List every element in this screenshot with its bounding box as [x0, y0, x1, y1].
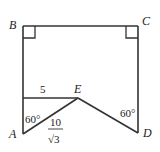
label-e: E: [73, 82, 82, 96]
label-c: C: [142, 14, 151, 28]
geometry-diagram: B C A E D 5 60° 60° 10 √3: [0, 0, 160, 152]
angle-label-a: 60°: [25, 113, 40, 125]
angle-label-d: 60°: [120, 107, 135, 119]
fraction-numerator: 10: [50, 116, 62, 128]
label-d: D: [142, 126, 152, 140]
length-label-5: 5: [40, 83, 46, 95]
right-angle-mark-c: [126, 26, 138, 38]
fraction-denominator: √3: [48, 133, 60, 145]
label-a: A: [8, 127, 17, 141]
label-b: B: [9, 18, 17, 32]
right-angle-mark-b: [23, 26, 35, 38]
